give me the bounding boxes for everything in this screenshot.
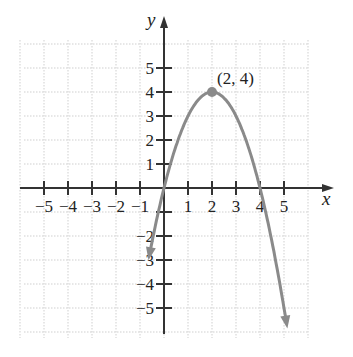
y-axis-title: y — [145, 9, 156, 30]
x-axis-title: x — [321, 188, 331, 209]
x-tick-label: 3 — [232, 197, 241, 216]
vertex-label: (2, 4) — [217, 69, 254, 88]
x-tick-label: 1 — [184, 197, 193, 216]
x-tick-label: −3 — [83, 197, 101, 216]
vertex-point — [207, 87, 217, 97]
parabola-curve — [150, 92, 287, 323]
parabola-chart: −5−4−3−2−112345 54321−2−3−4−5 (2, 4) x y — [0, 0, 353, 357]
y-tick-label: 5 — [146, 59, 155, 78]
y-tick-label: −5 — [136, 299, 154, 318]
x-tick-label: −1 — [131, 197, 149, 216]
y-tick-label: 3 — [146, 107, 155, 126]
y-tick-label: −4 — [136, 275, 155, 294]
y-tick-label: 2 — [146, 131, 155, 150]
x-tick-label: −4 — [59, 197, 78, 216]
x-tick-label: −5 — [35, 197, 53, 216]
x-tick-label: −2 — [107, 197, 125, 216]
x-tick-label: 2 — [208, 197, 217, 216]
y-axis-arrow-icon — [160, 16, 168, 28]
x-tick-label: 5 — [280, 197, 289, 216]
y-tick-label: 1 — [146, 155, 155, 174]
curve-arrow-right-icon — [280, 315, 290, 329]
y-tick-label: 4 — [146, 83, 155, 102]
